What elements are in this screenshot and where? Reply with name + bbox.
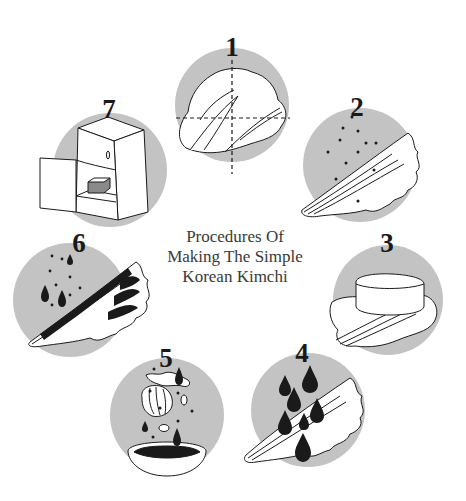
step-number-5: 5	[159, 345, 173, 372]
fridge-door	[40, 158, 76, 212]
step-6-illustration	[13, 243, 149, 357]
refrigerator-icon	[40, 117, 148, 220]
step-number-6: 6	[72, 230, 86, 257]
fridge-front	[76, 128, 118, 220]
fridge-side	[114, 130, 148, 220]
kimchi-procedure-diagram: 1 2 3 4 5 6 7 Procedures Of Making The S…	[0, 0, 466, 501]
step-number-7: 7	[102, 96, 116, 123]
step-number-4: 4	[295, 340, 309, 367]
step-7-illustration	[40, 113, 167, 227]
diagram-title: Procedures Of Making The Simple Korean K…	[150, 227, 320, 287]
step-5-illustration	[110, 358, 224, 476]
step-4-illustration	[244, 353, 365, 467]
step-number-2: 2	[350, 94, 364, 121]
step-3-illustration	[330, 245, 443, 355]
weight-stone	[356, 274, 424, 315]
step-1-illustration	[175, 48, 290, 174]
title-line-3: Korean Kimchi	[150, 267, 320, 287]
title-line-2: Making The Simple	[150, 247, 320, 267]
step-number-1: 1	[225, 34, 239, 61]
step-2-illustration	[302, 108, 419, 222]
title-line-1: Procedures Of	[150, 227, 320, 247]
step-number-3: 3	[380, 230, 394, 257]
